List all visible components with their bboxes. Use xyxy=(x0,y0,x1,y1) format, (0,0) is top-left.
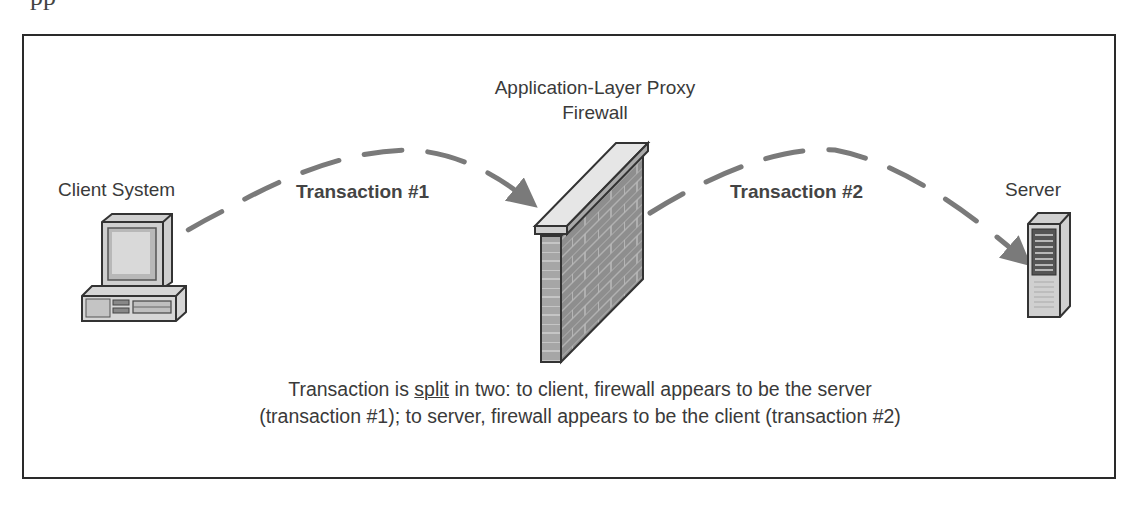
caption-line-2: (transaction #1); to server, firewall ap… xyxy=(150,403,1010,430)
desktop-computer-icon xyxy=(82,214,186,321)
tower-server-icon xyxy=(1028,213,1070,317)
diagram-caption: Transaction is split in two: to client, … xyxy=(150,376,1010,430)
transaction-2-arrow xyxy=(648,150,1022,258)
transaction-1-arrow xyxy=(135,150,528,265)
transaction-2-label: Transaction #2 xyxy=(730,181,863,203)
caption-line-1: Transaction is split in two: to client, … xyxy=(150,376,1010,403)
server-label: Server xyxy=(1005,179,1061,201)
transaction-1-label: Transaction #1 xyxy=(296,181,429,203)
firewall-label-line2: Firewall xyxy=(430,100,760,125)
client-system-label: Client System xyxy=(58,179,175,201)
firewall-label-line1: Application-Layer Proxy xyxy=(430,75,760,100)
firewall-label: Application-Layer Proxy Firewall xyxy=(430,75,760,125)
caption-emphasis-split: split xyxy=(414,378,449,400)
brick-wall-icon xyxy=(535,143,648,362)
caption-part-1: Transaction is xyxy=(288,378,414,400)
caption-part-2: in two: to client, firewall appears to b… xyxy=(449,378,872,400)
